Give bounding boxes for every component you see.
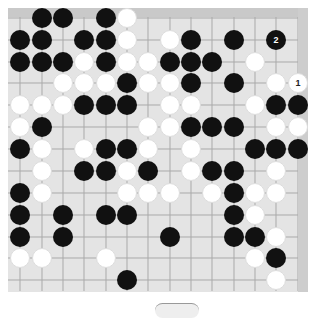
black-stone — [96, 95, 116, 115]
white-stone — [160, 73, 180, 93]
black-stone — [288, 95, 308, 115]
black-stone — [74, 95, 94, 115]
white-stone — [117, 161, 137, 181]
black-stone — [10, 52, 30, 72]
black-stone — [202, 117, 222, 137]
white-stone: 1 — [288, 73, 308, 93]
black-stone — [202, 161, 222, 181]
white-stone — [53, 95, 73, 115]
white-stone — [32, 183, 52, 203]
white-stone — [245, 248, 265, 268]
white-stone — [32, 248, 52, 268]
black-stone — [32, 8, 52, 28]
black-stone — [96, 8, 116, 28]
black-stone — [96, 30, 116, 50]
black-stone — [96, 205, 116, 225]
black-stone — [96, 139, 116, 159]
black-stone — [96, 161, 116, 181]
black-stone — [32, 52, 52, 72]
black-stone — [117, 270, 137, 290]
white-stone — [10, 248, 30, 268]
white-stone — [74, 139, 94, 159]
black-stone — [32, 30, 52, 50]
black-stone — [224, 73, 244, 93]
black-stone — [117, 73, 137, 93]
bottom-control-button[interactable] — [155, 303, 199, 318]
black-stone — [10, 139, 30, 159]
black-stone — [181, 73, 201, 93]
black-stone — [117, 95, 137, 115]
white-stone — [32, 139, 52, 159]
white-stone — [245, 205, 265, 225]
black-stone — [181, 52, 201, 72]
white-stone — [245, 52, 265, 72]
white-stone — [138, 73, 158, 93]
black-stone — [181, 30, 201, 50]
white-stone — [160, 183, 180, 203]
black-stone — [224, 227, 244, 247]
black-stone — [53, 227, 73, 247]
white-stone — [96, 73, 116, 93]
white-stone — [266, 117, 286, 137]
black-stone — [266, 248, 286, 268]
white-stone — [181, 161, 201, 181]
black-stone — [32, 117, 52, 137]
white-stone — [160, 117, 180, 137]
white-stone — [138, 183, 158, 203]
white-stone — [117, 183, 137, 203]
white-stone — [266, 73, 286, 93]
black-stone — [245, 227, 265, 247]
black-stone — [10, 183, 30, 203]
black-stone — [224, 117, 244, 137]
black-stone — [10, 30, 30, 50]
white-stone — [288, 117, 308, 137]
black-stone — [117, 205, 137, 225]
white-stone — [266, 183, 286, 203]
white-stone — [202, 183, 222, 203]
black-stone — [224, 205, 244, 225]
black-stone — [202, 52, 222, 72]
white-stone — [245, 183, 265, 203]
black-stone — [117, 139, 137, 159]
black-stone — [74, 161, 94, 181]
white-stone — [181, 139, 201, 159]
white-stone — [53, 73, 73, 93]
black-stone — [160, 52, 180, 72]
black-stone — [53, 8, 73, 28]
black-stone — [53, 52, 73, 72]
black-stone — [96, 52, 116, 72]
white-stone — [266, 227, 286, 247]
white-stone — [32, 161, 52, 181]
white-stone — [74, 52, 94, 72]
black-stone — [53, 205, 73, 225]
black-stone — [10, 205, 30, 225]
black-stone — [266, 95, 286, 115]
black-stone — [224, 183, 244, 203]
white-stone — [160, 30, 180, 50]
white-stone — [10, 95, 30, 115]
white-stone — [138, 139, 158, 159]
black-stone: 2 — [266, 30, 286, 50]
white-stone — [266, 161, 286, 181]
black-stone — [160, 227, 180, 247]
black-stone — [181, 117, 201, 137]
black-stone — [224, 30, 244, 50]
white-stone — [266, 270, 286, 290]
white-stone — [181, 95, 201, 115]
white-stone — [117, 30, 137, 50]
white-stone — [245, 95, 265, 115]
black-stone — [138, 161, 158, 181]
black-stone — [10, 227, 30, 247]
black-stone — [74, 30, 94, 50]
black-stone — [266, 139, 286, 159]
move-number-label: 1 — [295, 78, 300, 88]
white-stone — [117, 8, 137, 28]
white-stone — [138, 117, 158, 137]
white-stone — [96, 248, 116, 268]
white-stone — [74, 73, 94, 93]
black-stone — [224, 161, 244, 181]
black-stone — [288, 139, 308, 159]
move-number-label: 2 — [273, 35, 278, 45]
white-stone — [138, 52, 158, 72]
white-stone — [117, 52, 137, 72]
